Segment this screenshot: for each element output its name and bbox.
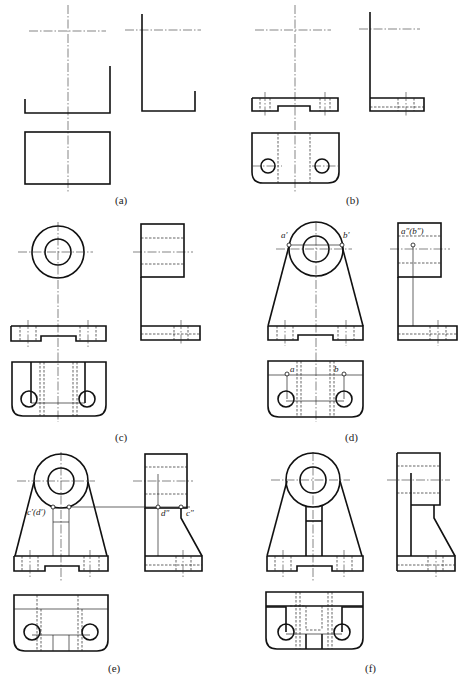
caption-f: (f) — [365, 662, 376, 674]
caption-e: (e) — [108, 662, 120, 674]
drawing-canvas — [0, 0, 466, 682]
label-ab-double-prime: a″(b″) — [401, 226, 424, 236]
caption-b: (b) — [346, 194, 359, 206]
label-b-prime: b′ — [343, 230, 349, 240]
panel-d — [268, 222, 457, 422]
label-b: b — [334, 364, 339, 374]
label-a-prime: a′ — [281, 230, 287, 240]
caption-a: (a) — [115, 194, 127, 206]
panel-e — [14, 452, 202, 651]
label-cd-prime: c′(d′) — [27, 507, 45, 517]
panel-b — [252, 5, 424, 192]
label-d-double-prime: d″ — [161, 508, 169, 518]
caption-d: (d) — [345, 431, 358, 443]
panel-f — [266, 452, 455, 649]
label-c-double-prime: c″ — [186, 508, 194, 518]
label-a: a — [290, 364, 295, 374]
panel-a — [25, 5, 201, 192]
caption-c: (c) — [115, 431, 127, 443]
panel-c — [11, 222, 200, 422]
